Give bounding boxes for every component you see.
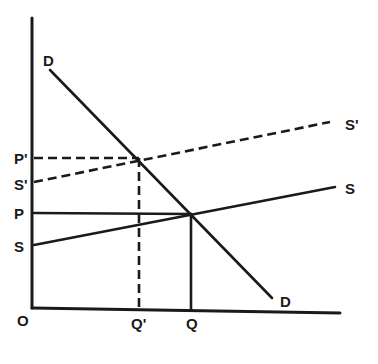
- supply-new-axis-label: S': [14, 176, 28, 193]
- demand-bottom-label: D: [280, 293, 291, 310]
- supply-old-axis-label: S: [14, 238, 24, 255]
- shifted-supply-curve: [34, 122, 330, 182]
- price-new-label: P': [14, 150, 28, 167]
- supply-new-end-label: S': [345, 116, 359, 133]
- price-p-guide: [34, 213, 191, 214]
- origin-label: O: [17, 312, 29, 329]
- demand-top-label: D: [43, 52, 54, 69]
- supply-old-end-label: S: [345, 180, 355, 197]
- quantity-old-label: Q: [186, 315, 198, 332]
- price-old-label: P: [14, 205, 24, 222]
- x-axis: [32, 308, 340, 313]
- demand-curve: [50, 70, 272, 298]
- quantity-new-label: Q': [131, 315, 146, 332]
- supply-demand-diagram: D D P' S' P S S' S O Q' Q: [0, 0, 378, 364]
- supply-curve: [34, 187, 335, 245]
